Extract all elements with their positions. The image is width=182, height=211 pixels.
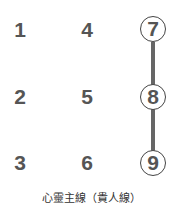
circled-number-9: 9	[140, 150, 166, 176]
number-5: 5	[72, 84, 102, 110]
number-1: 1	[5, 17, 35, 43]
circled-number-8: 8	[140, 84, 166, 110]
circled-number-7: 7	[140, 16, 166, 42]
number-3: 3	[5, 150, 35, 176]
number-4: 4	[72, 17, 102, 43]
number-6: 6	[72, 150, 102, 176]
number-grid: 1 2 3 4 5 6 7 8 9	[0, 0, 182, 185]
diagram-caption: 心靈主線（貴人線）	[0, 189, 182, 205]
number-2: 2	[5, 84, 35, 110]
